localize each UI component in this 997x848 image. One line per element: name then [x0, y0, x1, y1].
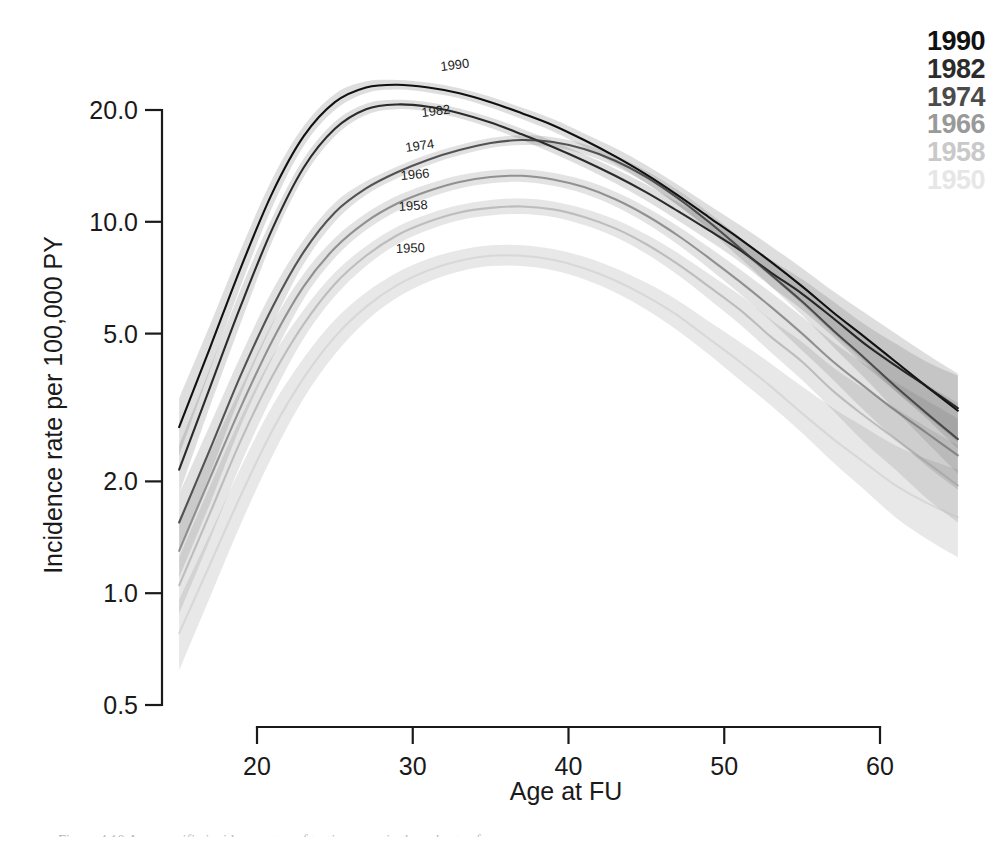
x-tick-label: 20: [243, 752, 271, 780]
y-tick-label: 2.0: [103, 467, 138, 495]
y-tick-label: 0.5: [103, 691, 138, 719]
y-axis: 0.51.02.05.010.020.0: [89, 96, 162, 719]
inline-label-1950: 1950: [396, 240, 425, 256]
y-axis-ticks: 0.51.02.05.010.020.0: [89, 96, 162, 719]
inline-label-1990: 1990: [440, 56, 471, 74]
y-tick-label: 5.0: [103, 320, 138, 348]
legend-item-1974[interactable]: 1974: [927, 84, 985, 112]
figure-caption: Figure 4.10 Age-specific incidence rates…: [58, 832, 958, 837]
x-tick-label: 40: [555, 752, 583, 780]
x-tick-label: 30: [399, 752, 427, 780]
inline-label-1974: 1974: [404, 136, 435, 155]
inline-label-1982: 1982: [421, 102, 452, 120]
x-axis-title: Age at FU: [510, 777, 623, 805]
legend-item-1990[interactable]: 1990: [927, 28, 985, 56]
x-axis: 2030405060: [243, 727, 894, 780]
y-axis-title: Incidence rate per 100,000 PY: [39, 236, 67, 574]
figure-container: 199019821974196619581950 0.51.02.05.010.…: [0, 0, 997, 848]
legend-item-1958[interactable]: 1958: [927, 139, 985, 167]
legend: 199019821974196619581950: [927, 28, 985, 195]
chart-canvas: 199019821974196619581950 0.51.02.05.010.…: [0, 0, 997, 848]
y-tick-label: 10.0: [89, 208, 138, 236]
legend-item-1950[interactable]: 1950: [927, 167, 985, 195]
y-tick-label: 20.0: [89, 96, 138, 124]
confidence-bands-group: [179, 80, 958, 671]
x-tick-label: 50: [710, 752, 738, 780]
inline-label-1958: 1958: [398, 197, 428, 214]
x-tick-label: 60: [866, 752, 894, 780]
x-axis-ticks: 2030405060: [243, 727, 894, 780]
legend-item-1966[interactable]: 1966: [927, 111, 985, 139]
y-tick-label: 1.0: [103, 579, 138, 607]
inline-label-1966: 1966: [400, 166, 430, 183]
legend-item-1982[interactable]: 1982: [927, 56, 985, 84]
